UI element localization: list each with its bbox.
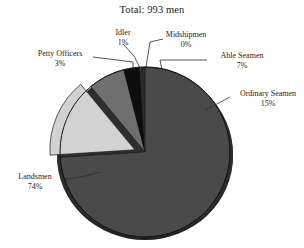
slice-label-landsmen: Landsmen 74% xyxy=(8,172,62,191)
slice-label-able-seamen-name: Able Seamen xyxy=(210,51,274,61)
slice-label-idler-pct: 1% xyxy=(98,38,148,48)
leader-line-idler xyxy=(123,44,140,68)
slice-label-midshipmen: Midshipmen 0% xyxy=(150,30,222,49)
slice-label-landsmen-name: Landsmen xyxy=(8,172,62,182)
leader-line-able-seamen xyxy=(160,60,207,70)
slice-label-midshipmen-pct: 0% xyxy=(150,40,222,50)
slice-label-able-seamen-pct: 7% xyxy=(210,61,274,71)
slice-label-landsmen-pct: 74% xyxy=(8,182,62,192)
slice-label-petty-officers: Petty Officers 3% xyxy=(26,49,94,68)
slice-label-idler-name: Idler xyxy=(98,28,148,38)
pie-chart-figure: Total: 993 men Idler 1% Midshipmen 0% Pe… xyxy=(0,0,304,248)
slice-label-petty-officers-pct: 3% xyxy=(26,59,94,69)
slice-label-petty-officers-name: Petty Officers xyxy=(26,49,94,59)
slice-label-ordinary-seamen-name: Ordinary Seamen xyxy=(233,89,303,99)
pie-slices xyxy=(50,67,230,237)
slice-label-ordinary-seamen: Ordinary Seamen 15% xyxy=(233,89,303,108)
slice-label-midshipmen-name: Midshipmen xyxy=(150,30,222,40)
slice-label-able-seamen: Able Seamen 7% xyxy=(210,51,274,70)
slice-label-ordinary-seamen-pct: 15% xyxy=(233,99,303,109)
leader-line-petty-officers xyxy=(93,57,133,70)
chart-title: Total: 993 men xyxy=(0,4,304,15)
slice-label-idler: Idler 1% xyxy=(98,28,148,47)
